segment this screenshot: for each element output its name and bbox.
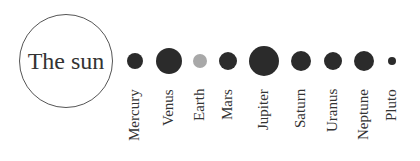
planet-mercury bbox=[127, 53, 143, 69]
planet-saturn bbox=[291, 51, 311, 71]
planet-jupiter bbox=[249, 46, 279, 76]
planet-pluto bbox=[388, 57, 396, 65]
planet-label-saturn: Saturn bbox=[293, 89, 308, 128]
planet-label-earth: Earth bbox=[192, 89, 207, 121]
solar-system-diagram: The sun MercuryVenusEarthMarsJupiterSatu… bbox=[0, 0, 420, 161]
planet-neptune bbox=[354, 51, 374, 71]
planet-label-jupiter: Jupiter bbox=[256, 89, 271, 130]
planet-label-uranus: Uranus bbox=[325, 89, 340, 132]
planet-venus bbox=[156, 48, 182, 74]
planet-label-pluto: Pluto bbox=[384, 89, 399, 121]
planet-mars bbox=[219, 52, 237, 70]
planet-uranus bbox=[324, 52, 342, 70]
sun-circle: The sun bbox=[19, 14, 113, 108]
sun-label: The sun bbox=[28, 48, 105, 75]
planet-earth bbox=[193, 54, 207, 68]
planet-label-neptune: Neptune bbox=[356, 89, 371, 140]
planet-label-mars: Mars bbox=[220, 89, 235, 120]
planet-label-venus: Venus bbox=[161, 89, 176, 126]
planet-label-mercury: Mercury bbox=[127, 89, 142, 141]
